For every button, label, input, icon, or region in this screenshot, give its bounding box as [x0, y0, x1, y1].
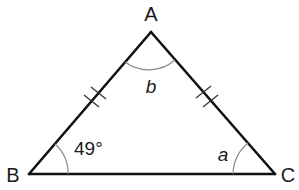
angle-arc-a: [125, 60, 175, 70]
triangle-diagram: A B C b 49° a: [0, 0, 299, 190]
vertex-label-b: B: [6, 164, 19, 186]
vertex-label-c: C: [281, 164, 295, 186]
angle-label-a: b: [146, 76, 157, 97]
triangle-abc: [29, 32, 275, 174]
angle-label-b: 49°: [74, 138, 103, 159]
angle-label-c: a: [218, 144, 229, 165]
angle-arc-b: [55, 144, 68, 174]
side-ac: [151, 32, 275, 174]
vertex-label-a: A: [144, 3, 158, 25]
angle-arc-c: [233, 143, 248, 174]
